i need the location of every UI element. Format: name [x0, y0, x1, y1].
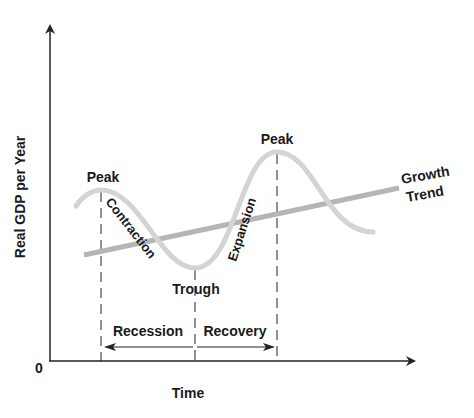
- x-axis-label: Time: [172, 385, 205, 401]
- growth-trend-label-line1: Growth: [400, 163, 451, 187]
- y-axis-label: Real GDP per Year: [12, 135, 28, 258]
- peak2-label: Peak: [261, 131, 294, 147]
- business-cycle-diagram: Real GDP per Year Time 0 Peak Peak Troug…: [0, 0, 474, 418]
- trough-label: Trough: [172, 281, 219, 297]
- recovery-label: Recovery: [203, 323, 266, 339]
- origin-label: 0: [35, 360, 43, 376]
- growth-trend-label-line2: Trend: [405, 183, 445, 205]
- recession-label: Recession: [113, 323, 183, 339]
- peak1-label: Peak: [87, 169, 120, 185]
